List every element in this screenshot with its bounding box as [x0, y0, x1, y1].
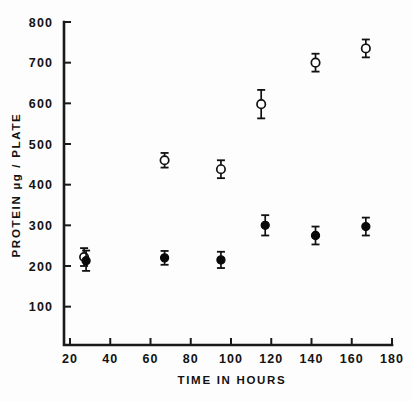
data-point [217, 252, 225, 268]
data-point [312, 227, 320, 245]
x-tick-label: 60 [142, 352, 158, 366]
scatter-plot-canvas: 100200300400500600700800 204060801001201… [0, 0, 412, 401]
data-point [161, 251, 169, 265]
axis-frame [64, 22, 392, 345]
filled-circle-marker [362, 223, 370, 231]
y-tick-label: 800 [29, 16, 53, 30]
filled-circle-marker [312, 232, 320, 240]
y-axis-title: PROTEIN µg / PLATE [10, 113, 22, 258]
y-tick-label: 500 [29, 138, 53, 152]
data-point [362, 39, 370, 57]
data-point [257, 90, 265, 118]
open-circle-marker [257, 100, 265, 108]
filled-circle-marker [217, 256, 225, 264]
protein-vs-time-figure: 100200300400500600700800 204060801001201… [0, 0, 412, 401]
y-tick-label: 700 [29, 56, 53, 70]
y-tick-label: 400 [29, 178, 53, 192]
x-axis-ticks: 20406080100120140160180 [62, 338, 404, 366]
data-point [217, 160, 225, 178]
x-tick-label: 160 [340, 352, 364, 366]
x-tick-label: 100 [219, 352, 243, 366]
filled-circle-marker [82, 257, 90, 265]
open-circle-marker [311, 58, 319, 66]
x-tick-label: 80 [183, 352, 199, 366]
data-point [160, 153, 168, 168]
series-open-circles [80, 39, 370, 266]
data-point [362, 218, 370, 236]
data-point [261, 215, 269, 235]
x-tick-label: 20 [62, 352, 78, 366]
data-series-layer [80, 39, 370, 270]
x-axis-title: TIME IN HOURS [178, 374, 287, 386]
x-tick-label: 180 [380, 352, 404, 366]
y-tick-label: 600 [29, 97, 53, 111]
x-tick-label: 140 [299, 352, 323, 366]
x-tick-label: 120 [259, 352, 283, 366]
x-tick-label: 40 [102, 352, 118, 366]
open-circle-marker [160, 156, 168, 164]
series-filled-circles [82, 215, 370, 271]
y-tick-label: 300 [29, 219, 53, 233]
open-circle-marker [362, 44, 370, 52]
y-tick-label: 100 [29, 300, 53, 314]
open-circle-marker [217, 165, 225, 173]
y-tick-label: 200 [29, 260, 53, 274]
filled-circle-marker [261, 221, 269, 229]
data-point [311, 54, 319, 72]
filled-circle-marker [161, 254, 169, 262]
